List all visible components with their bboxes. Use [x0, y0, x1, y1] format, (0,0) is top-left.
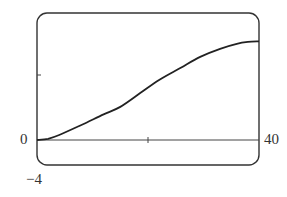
y-min-label: −4: [26, 172, 42, 187]
chart-plot: [0, 0, 287, 197]
x-max-label: 40: [264, 132, 279, 147]
data-curve: [37, 41, 259, 140]
x-min-label: 0: [20, 132, 28, 147]
